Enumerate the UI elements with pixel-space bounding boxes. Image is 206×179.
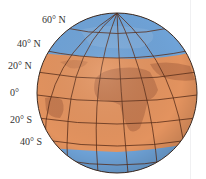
latitude-label-20s: 20° S: [10, 115, 32, 125]
latitude-label-equator: 0°: [10, 88, 19, 98]
latitude-label-40s: 40° S: [20, 137, 42, 147]
latitude-label-60n: 60° N: [42, 15, 66, 25]
latitude-label-20n: 20° N: [8, 61, 32, 71]
latitude-label-40n: 40° N: [17, 39, 41, 49]
globe-diagram: [0, 0, 206, 179]
